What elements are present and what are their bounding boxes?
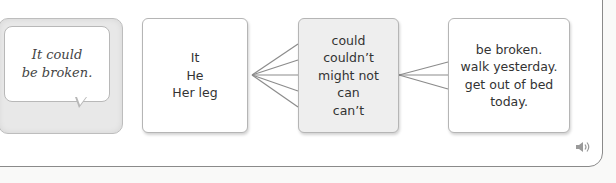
modal-item: might not [318,67,379,85]
predicate-item: get out of bed today. [449,76,569,111]
subject-box: It He Her leg [142,18,248,133]
speaker-icon[interactable] [575,139,591,155]
modal-verb-box: could couldn’t might not can can’t [298,18,399,133]
modal-item: couldn’t [323,49,374,67]
modal-item: can’t [333,102,364,120]
subject-item: It [191,49,200,67]
subject-item: He [186,67,203,85]
modal-item: can [337,84,359,102]
predicate-box: be broken. walk yesterday. get out of be… [448,18,570,133]
predicate-item: be broken. [476,41,542,59]
modal-item: could [332,32,366,50]
predicate-item: walk yesterday. [461,58,558,76]
subject-item: Her leg [172,84,217,102]
